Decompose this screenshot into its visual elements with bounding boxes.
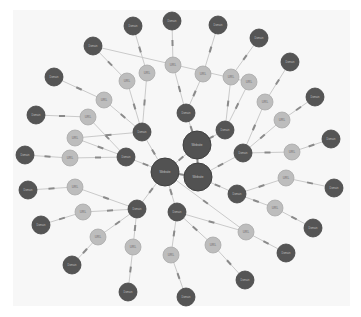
domain-node-label: Domain [37,223,46,227]
edge-label [83,249,87,253]
url-node[interactable]: URL [205,237,221,253]
big-node-label: Website [193,175,204,179]
domain-node[interactable]: Domain [325,179,343,197]
url-node[interactable]: URL [257,94,273,110]
url-node-label: URL [95,235,102,239]
edge-label [98,146,104,148]
domain-node[interactable]: Domain [19,181,37,199]
url-node-label: URL [272,206,279,210]
edge-label [228,101,229,107]
url-node[interactable]: URL [165,57,181,73]
edge-label [210,47,212,53]
url-node[interactable]: URL [67,130,83,146]
domain-node[interactable]: Domain [117,148,135,166]
graph-canvas[interactable]: WebsiteWebsiteWebsiteDomainDomainDomainD… [0,0,361,317]
domain-node-label: Domain [214,23,223,27]
domain-node[interactable]: Domain [32,216,50,234]
edge-label [135,225,136,231]
domain-node-label: Domain [286,60,295,64]
domain-node[interactable]: Domain [133,123,151,141]
url-node[interactable]: URL [267,200,283,216]
edge-label [193,226,197,230]
domain-node-label: Domain [311,95,320,99]
url-node[interactable]: URL [278,170,294,186]
url-node[interactable]: URL [163,247,179,263]
url-node-label: URL [67,156,74,160]
url-node-label: URL [72,185,79,189]
domain-node[interactable]: Domain [168,203,186,221]
url-node[interactable]: URL [75,204,91,220]
edge-label [218,164,223,167]
big-node[interactable]: Website [184,163,212,191]
domain-node[interactable]: Domain [124,17,142,35]
url-node-label: URL [124,79,131,83]
url-node[interactable]: URL [223,69,239,85]
url-node-label: URL [289,150,296,154]
url-node[interactable]: URL [139,65,155,81]
network-graph[interactable]: WebsiteWebsiteWebsiteDomainDomainDomainD… [0,0,361,317]
domain-node[interactable]: Domain [322,130,340,148]
url-node-label: URL [80,210,87,214]
edge-label [179,174,185,175]
url-node[interactable]: URL [284,144,300,160]
url-node[interactable]: URL [90,229,106,245]
url-node[interactable]: URL [80,109,96,125]
domain-node[interactable]: Domain [306,88,324,106]
domain-node[interactable]: Domain [177,104,195,122]
domain-node[interactable]: Domain [228,185,246,203]
url-node[interactable]: URL [96,92,112,108]
domain-node[interactable]: Domain [16,146,34,164]
domain-node[interactable]: Domain [45,68,63,86]
domain-node[interactable]: Domain [234,144,252,162]
domain-node[interactable]: Domain [177,288,195,306]
domain-node[interactable]: Domain [281,53,299,71]
url-node[interactable]: URL [241,74,257,90]
edge-label [76,87,81,90]
edge-label [149,188,153,193]
domain-node[interactable]: Domain [119,283,137,301]
domain-node[interactable]: Domain [84,37,102,55]
edge-label [309,145,315,147]
url-node-label: URL [101,98,108,102]
edge-label [108,61,112,65]
edge-label [139,47,141,53]
domain-node[interactable]: Domain [250,29,268,47]
url-node[interactable]: URL [125,239,141,255]
edge-label [177,273,179,279]
domain-node-label: Domain [282,251,291,255]
domain-node[interactable]: Domain [27,106,45,124]
big-node[interactable]: Website [183,131,211,159]
domain-node[interactable]: Domain [304,219,322,237]
url-node-label: URL [200,72,207,76]
domain-node-label: Domain [138,130,147,134]
domain-node-label: Domain [21,153,30,157]
edge-label [307,182,313,183]
edge-label [203,200,208,204]
url-node[interactable]: URL [238,224,254,240]
url-node[interactable]: URL [274,112,290,128]
url-node[interactable]: URL [195,66,211,82]
url-node-label: URL [210,243,217,247]
domain-node[interactable]: Domain [277,244,295,262]
edge-label [253,200,259,202]
big-node-label: Website [192,143,203,147]
domain-node[interactable]: Domain [216,121,234,139]
url-node-label: URL [72,136,79,140]
edge-label [296,107,301,110]
domain-node-label: Domain [168,19,177,23]
url-node[interactable]: URL [62,150,78,166]
domain-node[interactable]: Domain [163,12,181,30]
edge-label [243,55,246,60]
edge-label [276,79,279,84]
edge-label [174,231,175,237]
domain-node-label: Domain [309,226,318,230]
url-node-label: URL [168,253,175,257]
url-node-label: URL [283,176,290,180]
domain-node[interactable]: Domain [63,256,81,274]
url-node[interactable]: URL [67,179,83,195]
domain-node[interactable]: Domain [236,271,254,289]
domain-node[interactable]: Domain [209,16,227,34]
url-node[interactable]: URL [119,73,135,89]
domain-node[interactable]: Domain [128,200,146,218]
big-node[interactable]: Website [151,158,179,186]
